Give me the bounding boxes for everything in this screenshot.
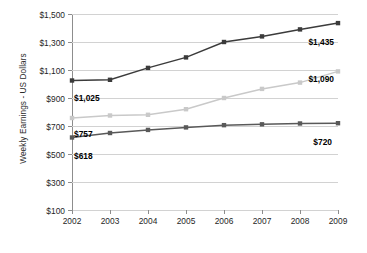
data-point-marker	[222, 123, 226, 127]
data-point-marker	[260, 87, 264, 91]
data-point-marker	[298, 80, 302, 84]
data-point-label: $720	[313, 137, 332, 147]
x-tick-mark	[110, 210, 111, 214]
data-point-marker	[184, 55, 188, 59]
y-axis-title: Weekly Earnings - US Dollars	[19, 24, 28, 194]
data-point-marker	[108, 131, 112, 135]
x-tick-mark	[148, 210, 149, 214]
data-point-marker	[108, 113, 112, 117]
x-tick-label: 2003	[90, 216, 130, 226]
x-tick-mark	[338, 210, 339, 214]
data-point-marker	[146, 66, 150, 70]
data-point-marker	[222, 96, 226, 100]
gridline	[72, 210, 338, 211]
series-layer	[72, 14, 338, 210]
y-tick-label: $100	[19, 206, 65, 216]
y-tick-label: $300	[19, 178, 65, 188]
data-point-marker	[184, 125, 188, 129]
data-point-marker	[336, 121, 340, 125]
data-point-label: $1,025	[74, 93, 100, 103]
data-point-marker	[298, 27, 302, 31]
x-tick-label: 2008	[280, 216, 320, 226]
x-tick-label: 2006	[204, 216, 244, 226]
x-tick-label: 2007	[242, 216, 282, 226]
x-tick-label: 2005	[166, 216, 206, 226]
data-point-marker	[146, 113, 150, 117]
series-line	[72, 23, 338, 80]
y-tick-label: $1,100	[19, 66, 65, 76]
y-tick-label: $700	[19, 122, 65, 132]
y-tick-label: $900	[19, 94, 65, 104]
y-tick-label: $1,300	[19, 38, 65, 48]
x-tick-mark	[72, 210, 73, 214]
x-tick-mark	[224, 210, 225, 214]
data-point-label: $1,090	[308, 74, 334, 84]
x-tick-label: 2004	[128, 216, 168, 226]
x-tick-mark	[300, 210, 301, 214]
data-point-marker	[70, 78, 74, 82]
data-point-marker	[108, 78, 112, 82]
data-point-label: $757	[74, 129, 93, 139]
data-point-label: $618	[74, 151, 93, 161]
data-point-marker	[336, 21, 340, 25]
line-chart: Weekly Earnings - US Dollars $100$300$50…	[0, 0, 367, 253]
data-point-marker	[222, 40, 226, 44]
data-point-label: $1,435	[308, 37, 334, 47]
series-upper-line	[70, 21, 340, 83]
data-point-marker	[260, 34, 264, 38]
data-point-marker	[146, 128, 150, 132]
data-point-marker	[184, 107, 188, 111]
x-tick-mark	[186, 210, 187, 214]
y-tick-label: $500	[19, 150, 65, 160]
x-tick-mark	[262, 210, 263, 214]
data-point-marker	[70, 116, 74, 120]
data-point-marker	[298, 121, 302, 125]
x-tick-label: 2009	[318, 216, 358, 226]
data-point-marker	[336, 69, 340, 73]
series-middle-line	[70, 69, 340, 120]
x-tick-label: 2002	[52, 216, 92, 226]
series-lower-line	[70, 121, 340, 140]
y-tick-label: $1,500	[19, 10, 65, 20]
data-point-marker	[260, 122, 264, 126]
